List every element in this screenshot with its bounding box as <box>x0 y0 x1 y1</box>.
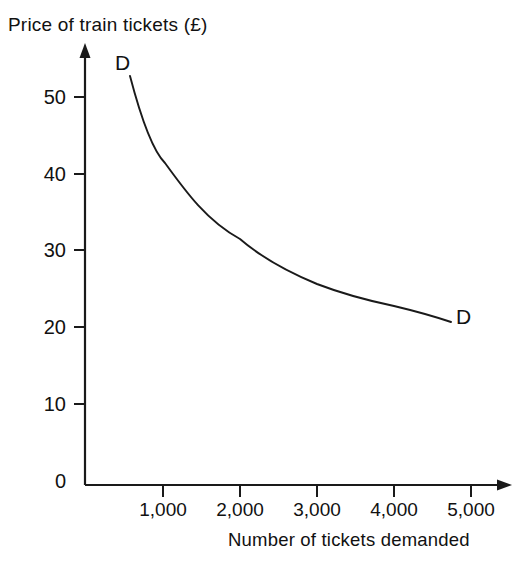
x-tick-label-1000: 1,000 <box>121 500 205 520</box>
y-tick-label-10: 10 <box>20 394 66 414</box>
x-tick-label-5000: 5,000 <box>429 500 513 520</box>
y-tick-label-30: 30 <box>20 240 66 260</box>
y-tick-label-50: 50 <box>20 87 66 107</box>
x-tick-label-2000: 2,000 <box>198 500 282 520</box>
y-tick-label-0: 0 <box>20 471 66 491</box>
x-tick-label-4000: 4,000 <box>352 500 436 520</box>
y-axis-ticks <box>74 97 85 404</box>
y-tick-label-40: 40 <box>20 164 66 184</box>
x-axis-ticks <box>163 485 471 497</box>
x-axis-arrow-icon <box>497 480 512 491</box>
y-tick-label-20: 20 <box>20 317 66 337</box>
chart-canvas <box>0 0 524 568</box>
x-tick-label-3000: 3,000 <box>275 500 359 520</box>
curve-label-d-start: D <box>115 52 130 73</box>
demand-curve-line <box>130 76 451 322</box>
demand-curve-figure: Price of train tickets (£) 0 10 20 30 <box>0 0 524 568</box>
curve-label-d-end: D <box>456 306 471 327</box>
x-axis-title: Number of tickets demanded <box>228 529 470 551</box>
y-axis-arrow-icon <box>80 43 91 58</box>
